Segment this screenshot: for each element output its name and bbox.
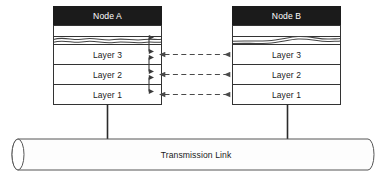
node-a-break-wave-bottom xyxy=(54,41,162,43)
node-b-layer-1-label: Layer 1 xyxy=(232,91,341,100)
network-layer-diagram xyxy=(0,0,388,174)
node-a-layer-1-label: Layer 1 xyxy=(53,91,162,100)
diagram-canvas: Node A Layer 3 Layer 2 Layer 1 Node B La… xyxy=(0,0,388,174)
node-a-layer-2-label: Layer 2 xyxy=(53,71,162,80)
node-a-layer-3-label: Layer 3 xyxy=(53,51,162,60)
node-a-title: Node A xyxy=(53,12,162,21)
node-b-layer-2-label: Layer 2 xyxy=(232,71,341,80)
node-b-layer-3-label: Layer 3 xyxy=(232,51,341,60)
node-b-title: Node B xyxy=(232,12,341,21)
peer-protocol-arrows xyxy=(165,55,230,95)
node-a-upper-band xyxy=(54,26,162,37)
node-b-upper-band xyxy=(233,26,341,37)
node-a-break-wave-top xyxy=(54,38,162,40)
transmission-link-label: Transmission Link xyxy=(24,151,368,160)
transmission-link-left-cap xyxy=(12,139,24,170)
